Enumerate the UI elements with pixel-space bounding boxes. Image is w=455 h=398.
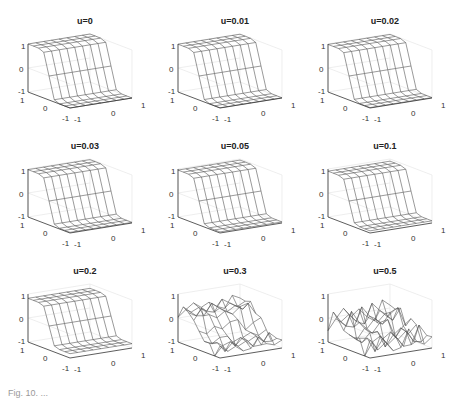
surface-plot	[300, 0, 450, 125]
y-tick-label: -1	[212, 239, 219, 248]
z-tick-label: 0	[319, 65, 323, 74]
z-tick-label: 1	[21, 167, 25, 176]
y-tick-label: 1	[320, 346, 324, 355]
x-tick-label: -1	[374, 240, 381, 249]
x-tick-label: 0	[411, 109, 415, 118]
z-tick-label: 1	[321, 292, 325, 301]
y-tick-label: 1	[20, 96, 24, 105]
surface-plot-panel: u=0.0310-110-1-101	[0, 125, 150, 250]
y-tick-label: 1	[20, 346, 24, 355]
z-tick-label: 1	[171, 292, 175, 301]
x-tick-label: -1	[74, 115, 81, 124]
x-tick-label: -1	[74, 365, 81, 374]
y-tick-label: 0	[193, 104, 197, 113]
x-tick-label: -1	[224, 365, 231, 374]
z-tick-label: -1	[168, 212, 175, 221]
y-tick-label: -1	[62, 364, 69, 373]
surface-plot-panel: u=0.310-110-1-101	[150, 250, 300, 375]
x-tick-label: 1	[441, 351, 445, 360]
z-tick-label: 1	[321, 42, 325, 51]
surface-plot-panel: u=0.0110-110-1-101	[150, 0, 300, 125]
y-tick-label: 0	[343, 354, 347, 363]
x-tick-label: 1	[441, 101, 445, 110]
x-tick-label: 0	[261, 359, 265, 368]
y-tick-label: 1	[170, 221, 174, 230]
surface-plot-panel: u=0.110-110-1-101	[300, 125, 450, 250]
x-tick-label: 0	[111, 359, 115, 368]
z-tick-label: -1	[168, 337, 175, 346]
surface-plot	[150, 250, 300, 375]
surface-plot-panel: u=0.0510-110-1-101	[150, 125, 300, 250]
y-tick-label: -1	[62, 239, 69, 248]
x-tick-label: 1	[291, 351, 295, 360]
z-tick-label: 0	[169, 315, 173, 324]
x-tick-label: -1	[374, 365, 381, 374]
x-tick-label: -1	[74, 240, 81, 249]
z-tick-label: -1	[168, 87, 175, 96]
y-tick-label: 0	[43, 104, 47, 113]
x-tick-label: -1	[374, 115, 381, 124]
z-tick-label: 0	[319, 190, 323, 199]
x-tick-label: 0	[261, 234, 265, 243]
surface-plot-panel: u=0.510-110-1-101	[300, 250, 450, 375]
y-tick-label: 1	[170, 96, 174, 105]
y-tick-label: 1	[170, 346, 174, 355]
y-tick-label: -1	[212, 364, 219, 373]
x-tick-label: 1	[141, 101, 145, 110]
surface-plot	[150, 0, 300, 125]
y-tick-label: -1	[362, 239, 369, 248]
y-tick-label: -1	[362, 364, 369, 373]
x-tick-label: -1	[224, 240, 231, 249]
x-tick-label: 1	[441, 226, 445, 235]
z-tick-label: -1	[318, 87, 325, 96]
z-tick-label: -1	[18, 87, 25, 96]
z-tick-label: 0	[19, 65, 23, 74]
y-tick-label: 0	[43, 354, 47, 363]
x-tick-label: 0	[411, 359, 415, 368]
x-tick-label: 0	[111, 109, 115, 118]
z-tick-label: 0	[319, 315, 323, 324]
x-tick-label: 1	[291, 101, 295, 110]
x-tick-label: 1	[291, 226, 295, 235]
y-tick-label: 0	[43, 229, 47, 238]
surface-plot	[0, 0, 150, 125]
z-tick-label: 1	[21, 42, 25, 51]
surface-plot-panel: u=010-110-1-101	[0, 0, 150, 125]
y-tick-label: 1	[20, 221, 24, 230]
z-tick-label: 1	[21, 292, 25, 301]
z-tick-label: -1	[318, 337, 325, 346]
x-tick-label: 0	[261, 109, 265, 118]
surface-plot	[150, 125, 300, 250]
z-tick-label: -1	[318, 212, 325, 221]
z-tick-label: 0	[19, 315, 23, 324]
z-tick-label: -1	[18, 337, 25, 346]
y-tick-label: 0	[343, 229, 347, 238]
surface-plot	[0, 250, 150, 375]
z-tick-label: 1	[321, 167, 325, 176]
y-tick-label: -1	[362, 114, 369, 123]
surface-plot	[300, 125, 450, 250]
z-tick-label: 0	[19, 190, 23, 199]
figure-caption: Fig. 10. ...	[8, 388, 48, 398]
x-tick-label: -1	[224, 115, 231, 124]
x-tick-label: 0	[411, 234, 415, 243]
y-tick-label: 1	[320, 96, 324, 105]
surface-plot-panel: u=0.0210-110-1-101	[300, 0, 450, 125]
z-tick-label: -1	[18, 212, 25, 221]
z-tick-label: 1	[171, 167, 175, 176]
x-tick-label: 0	[111, 234, 115, 243]
z-tick-label: 0	[169, 65, 173, 74]
y-tick-label: -1	[212, 114, 219, 123]
y-tick-label: 1	[320, 221, 324, 230]
y-tick-label: 0	[343, 104, 347, 113]
y-tick-label: 0	[193, 229, 197, 238]
z-tick-label: 0	[169, 190, 173, 199]
x-tick-label: 1	[141, 351, 145, 360]
z-tick-label: 1	[171, 42, 175, 51]
y-tick-label: -1	[62, 114, 69, 123]
surface-plot	[0, 125, 150, 250]
surface-plot	[300, 250, 450, 375]
surface-plot-panel: u=0.210-110-1-101	[0, 250, 150, 375]
x-tick-label: 1	[141, 226, 145, 235]
y-tick-label: 0	[193, 354, 197, 363]
